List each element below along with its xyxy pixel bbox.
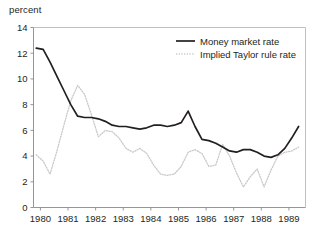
svg-text:1983: 1983 [113, 213, 134, 224]
svg-text:8: 8 [22, 99, 27, 110]
svg-text:6: 6 [22, 125, 27, 136]
svg-text:4: 4 [22, 150, 27, 161]
chart-figure: percent 02468101214 19801981198219831984… [0, 0, 316, 239]
svg-text:1981: 1981 [57, 213, 78, 224]
chart-legend: Money market rateImplied Taylor rule rat… [176, 36, 296, 60]
legend-label: Money market rate [200, 36, 279, 47]
svg-text:1984: 1984 [140, 213, 161, 224]
line-chart-plot: 02468101214 1980198119821983198419851986… [0, 0, 316, 239]
svg-text:0: 0 [22, 202, 27, 213]
data-series-group [36, 48, 298, 187]
svg-text:12: 12 [17, 48, 28, 59]
y-tick-labels: 02468101214 [17, 22, 28, 213]
svg-text:1986: 1986 [196, 213, 217, 224]
svg-text:14: 14 [17, 22, 28, 33]
x-tick-labels: 1980198119821983198419851986198719881989 [30, 213, 300, 224]
svg-text:10: 10 [17, 73, 28, 84]
svg-text:1980: 1980 [30, 213, 51, 224]
svg-text:1982: 1982 [85, 213, 106, 224]
legend-label: Implied Taylor rule rate [200, 49, 296, 60]
svg-text:2: 2 [22, 176, 27, 187]
svg-text:1989: 1989 [278, 213, 299, 224]
svg-text:1985: 1985 [168, 213, 189, 224]
svg-text:1987: 1987 [223, 213, 244, 224]
svg-text:1988: 1988 [251, 213, 272, 224]
series-line [36, 48, 298, 157]
series-line [36, 85, 298, 187]
